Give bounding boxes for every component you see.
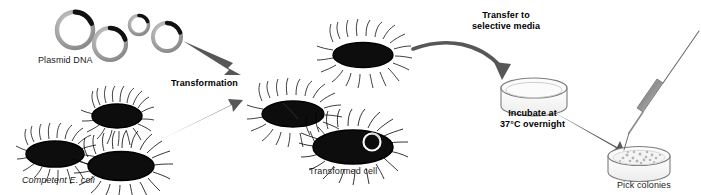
arrow-transfer-to-media bbox=[413, 43, 511, 80]
transfer-line-2: selective media bbox=[472, 21, 540, 32]
incubate-line-2: 37°C overnight bbox=[500, 119, 565, 130]
label-transformed-cell: Transformed cell bbox=[309, 166, 377, 176]
plasmid-group bbox=[57, 12, 181, 60]
step-label-transfer-to-selective-media: Transfer to selective media bbox=[472, 10, 540, 32]
competent-cell-3 bbox=[73, 131, 173, 195]
inoculation-needle bbox=[624, 31, 699, 150]
plasmid-ring-4 bbox=[153, 23, 181, 51]
transformation-diagram: Plasmid DNA Competent E. coli Transforme… bbox=[0, 0, 701, 195]
label-pick-colonies: Pick colonies bbox=[617, 180, 671, 190]
competent-cell-1 bbox=[81, 86, 154, 146]
plasmid-ring-3 bbox=[130, 16, 149, 35]
transfer-line-1: Transfer to bbox=[472, 10, 540, 21]
plasmid-ring-1 bbox=[57, 12, 93, 48]
plasmid-ring-2 bbox=[94, 28, 126, 60]
label-plasmid-dna: Plasmid DNA bbox=[38, 55, 93, 65]
transformed-cell-group bbox=[247, 19, 412, 185]
transformation-arrows bbox=[160, 41, 243, 140]
incubate-line-1: Incubate at bbox=[500, 108, 565, 119]
label-competent-ecoli: Competent E. coli bbox=[22, 175, 95, 185]
transformed-cell-1 bbox=[317, 19, 412, 88]
arrow-cells-to-transformed bbox=[160, 99, 243, 140]
arrow-plasmid-to-cells bbox=[183, 41, 241, 75]
step-label-transformation: Transformation bbox=[171, 78, 238, 89]
petri-dish-colonies bbox=[608, 147, 670, 182]
step-label-incubate: Incubate at 37°C overnight bbox=[500, 108, 565, 130]
